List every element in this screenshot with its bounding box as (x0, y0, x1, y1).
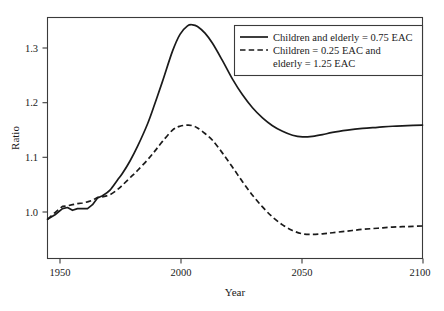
series-line-dashed (48, 125, 423, 234)
x-tick-labels: 1950 2000 2050 2100 (50, 267, 431, 278)
y-tick-label: 1.2 (25, 97, 38, 108)
line-chart: 1.3 1.2 1.1 1.0 1950 2000 2050 2100 Year… (0, 0, 444, 311)
x-axis-title: Year (225, 286, 246, 298)
y-axis-title: Ratio (9, 126, 21, 150)
legend-label-1-line-1: elderly = 1.25 EAC (273, 58, 355, 69)
chart-legend: Children and elderly = 0.75 EAC Children… (235, 26, 423, 76)
chart-figure: 1.3 1.2 1.1 1.0 1950 2000 2050 2100 Year… (0, 0, 444, 311)
y-tick-label: 1.1 (25, 152, 38, 163)
x-tick-label: 2000 (171, 267, 192, 278)
y-tickmarks (43, 48, 48, 212)
legend-label-0-line-0: Children and elderly = 0.75 EAC (273, 32, 412, 43)
y-tick-label: 1.3 (25, 43, 38, 54)
x-tickmarks (60, 259, 423, 264)
y-tick-label: 1.0 (25, 207, 38, 218)
x-tick-label: 1950 (50, 267, 71, 278)
legend-label-1-line-0: Children = 0.25 EAC and (273, 45, 381, 56)
x-tick-label: 2050 (292, 267, 313, 278)
y-tick-labels: 1.3 1.2 1.1 1.0 (25, 43, 38, 218)
x-tick-label: 2100 (410, 267, 431, 278)
